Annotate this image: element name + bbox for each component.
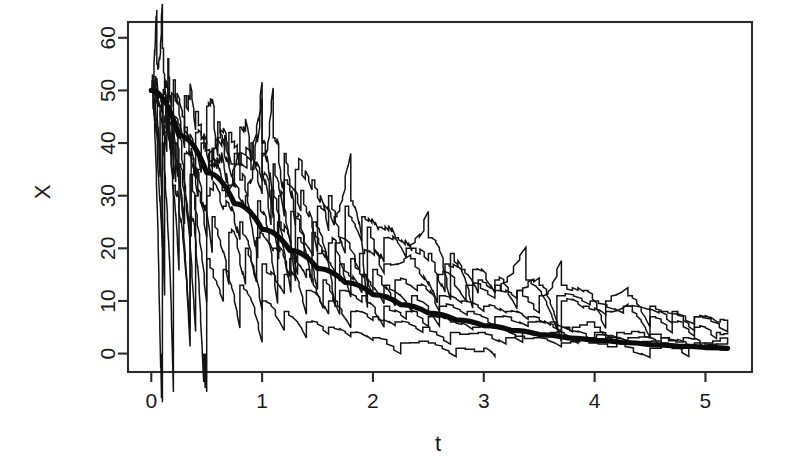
x-tick-label: 4 bbox=[589, 389, 601, 412]
y-tick-label: 40 bbox=[97, 131, 120, 154]
decay-process-chart: 012345 0102030405060 t X bbox=[0, 0, 785, 473]
chart-container: 012345 0102030405060 t X bbox=[0, 0, 785, 473]
x-tick-label: 5 bbox=[700, 389, 712, 412]
x-tick-label: 0 bbox=[145, 389, 157, 412]
y-tick-label: 0 bbox=[97, 348, 120, 360]
x-tick-label: 1 bbox=[256, 389, 268, 412]
y-tick-label: 60 bbox=[97, 26, 120, 49]
y-tick-label: 20 bbox=[97, 237, 120, 260]
y-tick-label: 10 bbox=[97, 289, 120, 312]
x-tick-label: 2 bbox=[367, 389, 379, 412]
x-tick-label: 3 bbox=[478, 389, 490, 412]
y-tick-label: 30 bbox=[97, 184, 120, 207]
x-axis-title: t bbox=[435, 431, 441, 456]
y-tick-label: 50 bbox=[97, 79, 120, 102]
y-axis-title: X bbox=[30, 184, 55, 199]
